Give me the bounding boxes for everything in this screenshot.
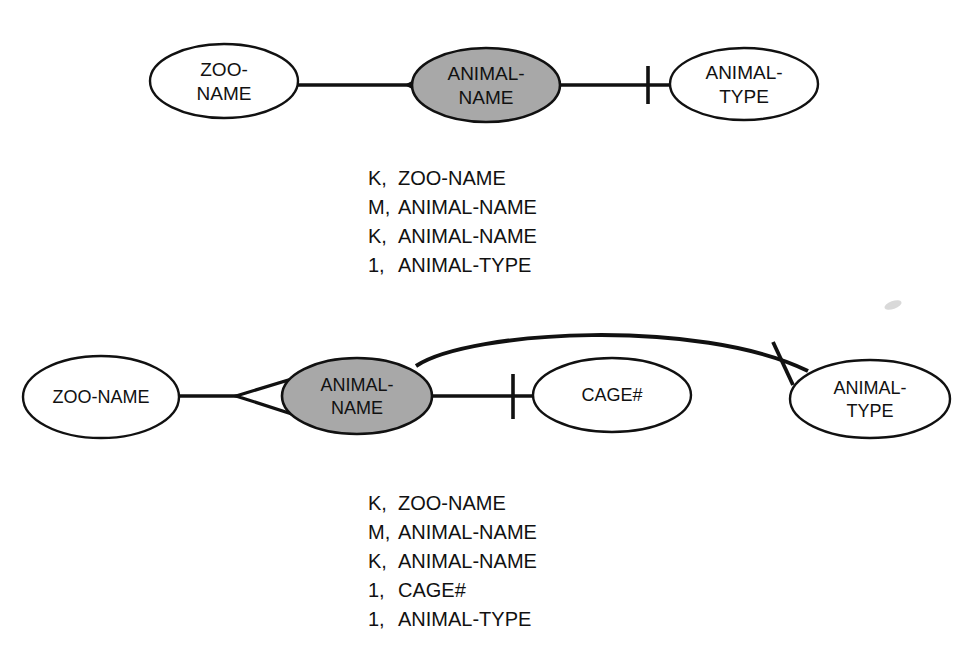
paper-speck bbox=[883, 298, 903, 312]
relationship-animal-name-to-cage-bottom bbox=[430, 374, 536, 419]
attr-name: ANIMAL-NAME bbox=[398, 196, 537, 218]
attr-key: 1, bbox=[368, 608, 385, 630]
entity-label-line-1: ZOO-NAME bbox=[53, 387, 150, 407]
entity-label-line-2: NAME bbox=[197, 83, 252, 104]
entity-ellipse[interactable] bbox=[150, 44, 298, 118]
entity-label-line-2: TYPE bbox=[846, 401, 893, 421]
entity-ellipse[interactable] bbox=[282, 358, 432, 434]
entity-animal-name-bottom[interactable]: ANIMAL- NAME bbox=[282, 358, 432, 434]
entity-ellipse[interactable] bbox=[790, 360, 950, 438]
entity-zoo-name-bottom[interactable]: ZOO-NAME bbox=[23, 356, 179, 438]
er-diagram-canvas: ZOO- NAME ANIMAL- NAME ANIMAL- TYPE K, Z… bbox=[0, 0, 975, 651]
entity-label-line-1: ZOO- bbox=[200, 59, 248, 80]
entity-ellipse[interactable] bbox=[412, 48, 560, 122]
attr-name: ANIMAL-TYPE bbox=[398, 254, 531, 276]
attr-key: 1, bbox=[368, 254, 385, 276]
entity-label-line-2: TYPE bbox=[719, 86, 769, 107]
entity-label-line-1: ANIMAL- bbox=[447, 63, 524, 84]
entity-label-line-1: ANIMAL- bbox=[833, 378, 906, 398]
attr-name: ZOO-NAME bbox=[398, 167, 506, 189]
entity-animal-type-top[interactable]: ANIMAL- TYPE bbox=[670, 48, 818, 120]
diagram-top: ZOO- NAME ANIMAL- NAME ANIMAL- TYPE K, Z… bbox=[150, 44, 818, 276]
entity-label-line-1: CAGE# bbox=[581, 385, 642, 405]
attr-key: K, bbox=[368, 550, 387, 572]
entity-label-line-1: ANIMAL- bbox=[705, 62, 782, 83]
attr-name: CAGE# bbox=[398, 579, 467, 601]
entity-label-line-2: NAME bbox=[459, 87, 514, 108]
entity-ellipse[interactable] bbox=[670, 48, 818, 120]
entity-cage-number-bottom[interactable]: CAGE# bbox=[533, 358, 691, 432]
attribute-list-top: K, ZOO-NAME M, ANIMAL-NAME K, ANIMAL-NAM… bbox=[368, 167, 537, 276]
diagram-bottom: ZOO-NAME ANIMAL- NAME CAGE# ANIMAL- TYPE… bbox=[23, 335, 950, 630]
attr-key: K, bbox=[368, 492, 387, 514]
relationship-animal-name-to-animal-type-top bbox=[558, 66, 672, 104]
attr-key: K, bbox=[368, 167, 387, 189]
attr-key: 1, bbox=[368, 579, 385, 601]
entity-zoo-name-top[interactable]: ZOO- NAME bbox=[150, 44, 298, 118]
entity-label-line-1: ANIMAL- bbox=[320, 375, 393, 395]
attr-name: ANIMAL-NAME bbox=[398, 225, 537, 247]
entity-animal-name-top[interactable]: ANIMAL- NAME bbox=[412, 48, 560, 122]
attr-key: M, bbox=[368, 196, 390, 218]
attr-name: ANIMAL-NAME bbox=[398, 550, 537, 572]
attr-name: ANIMAL-NAME bbox=[398, 521, 537, 543]
attr-name: ZOO-NAME bbox=[398, 492, 506, 514]
attr-key: K, bbox=[368, 225, 387, 247]
entity-label-line-2: NAME bbox=[331, 398, 383, 418]
entity-animal-type-bottom[interactable]: ANIMAL- TYPE bbox=[790, 360, 950, 438]
attribute-list-bottom: K, ZOO-NAME M, ANIMAL-NAME K, ANIMAL-NAM… bbox=[368, 492, 537, 630]
attr-name: ANIMAL-TYPE bbox=[398, 608, 531, 630]
relationship-zoo-to-animal-name-bottom bbox=[178, 379, 292, 414]
attr-key: M, bbox=[368, 521, 390, 543]
